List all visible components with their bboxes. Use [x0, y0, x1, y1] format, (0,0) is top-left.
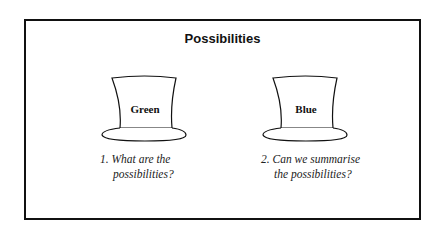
hat-label: Blue — [261, 103, 351, 115]
caption-line: the possibilities? — [261, 167, 401, 182]
diagram-frame: Possibilities Green Blue 1. What are the… — [24, 19, 421, 220]
hat-caption: 2. Can we summarise the possibilities? — [261, 152, 401, 182]
caption-line: possibilities? — [100, 167, 240, 182]
caption-line: 1. What are the — [100, 153, 170, 165]
caption-line: 2. Can we summarise — [261, 153, 360, 165]
green-hat: Green — [100, 75, 190, 145]
hat-caption: 1. What are the possibilities? — [100, 152, 240, 182]
diagram-title: Possibilities — [26, 31, 419, 46]
blue-hat: Blue — [261, 75, 351, 145]
hat-label: Green — [100, 103, 190, 115]
